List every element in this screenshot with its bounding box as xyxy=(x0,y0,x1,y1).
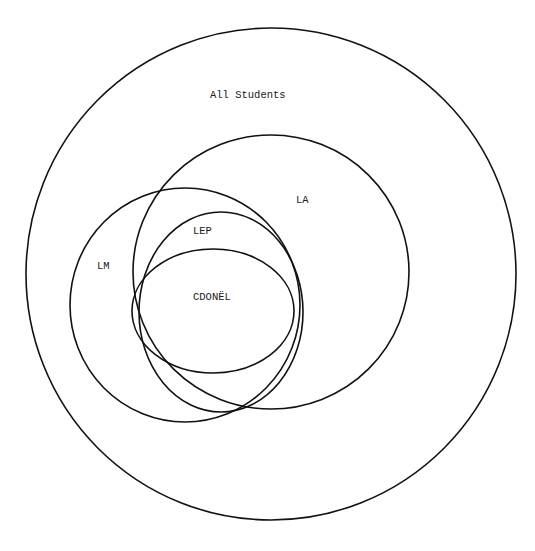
lm-label: LM xyxy=(97,260,110,272)
all-students-circle xyxy=(26,28,516,520)
venn-diagram: All Students LA LM LEP CDONËL xyxy=(0,0,535,551)
all-students-label: All Students xyxy=(210,89,286,101)
lep-label: LEP xyxy=(193,225,212,237)
lm-circle xyxy=(70,188,300,422)
la-circle xyxy=(133,135,409,409)
la-label: LA xyxy=(296,194,309,206)
lep-circle xyxy=(139,212,303,412)
cdonel-circle xyxy=(132,249,294,373)
cdonel-label: CDONËL xyxy=(193,291,231,303)
